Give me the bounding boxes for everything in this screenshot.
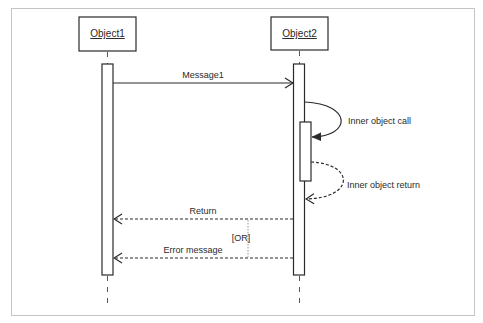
object2-label: Object2	[282, 28, 317, 39]
diagram-frame	[12, 9, 475, 316]
message1-label: Message1	[182, 70, 224, 80]
object2-box: Object2	[271, 17, 328, 50]
return-label: Return	[189, 206, 216, 216]
error-message-label: Error message	[163, 245, 222, 255]
inner-return-arrow	[306, 162, 343, 199]
inner-return-label: Inner object return	[347, 180, 420, 190]
alternative-label: [OR]	[232, 233, 251, 243]
object1-label: Object1	[90, 28, 125, 39]
object1-box: Object1	[79, 17, 136, 51]
object2-inner-activation-bar	[300, 122, 311, 181]
sequence-diagram: Object1 Object2 Message1 Inner object ca…	[0, 0, 483, 323]
inner-call-label: Inner object call	[348, 116, 411, 126]
object1-activation-bar	[102, 64, 113, 275]
